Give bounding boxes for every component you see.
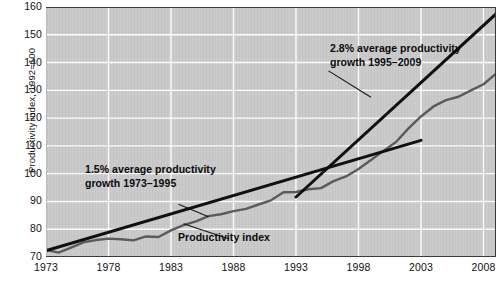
- new-growth-annotation: 2.8% average productivity growth 1995–20…: [330, 42, 461, 69]
- x-tick-label: 1978: [79, 261, 139, 273]
- old-growth-annotation: 1.5% average productivity growth 1973–19…: [85, 163, 216, 190]
- x-tick-label: 1983: [141, 261, 201, 273]
- new-growth-annotation-line1: 2.8% average productivity: [330, 42, 461, 56]
- x-tick-label: 2008: [454, 261, 503, 273]
- series-label-annotation: Productivity index: [178, 231, 270, 245]
- old-growth-annotation-line2: growth 1973–1995: [85, 177, 216, 191]
- series-label-annotation-text: Productivity index: [178, 231, 270, 245]
- x-tick-label: 1973: [16, 261, 76, 273]
- old-growth-annotation-line1: 1.5% average productivity: [85, 163, 216, 177]
- new-growth-annotation-line2: growth 1995–2009: [330, 56, 461, 70]
- x-tick-label: 2003: [391, 261, 451, 273]
- x-tick-label: 1998: [329, 261, 389, 273]
- x-tick-label: 1988: [204, 261, 264, 273]
- x-tick-label: 1993: [266, 261, 326, 273]
- productivity-index-chart-figure: Productivity index, 1992=100 70809010011…: [0, 0, 503, 284]
